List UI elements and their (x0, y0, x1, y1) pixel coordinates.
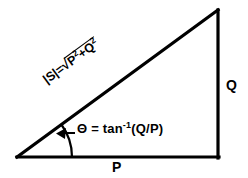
equals-sign: = (91, 121, 99, 136)
angle-equation-label: Θ = tan-1(Q/P) (77, 122, 163, 135)
vertical-label-q: Q (226, 78, 237, 92)
angle-arrowhead-icon (56, 128, 66, 139)
tan-inverse-exponent: -1 (123, 120, 131, 130)
tan-function: tan (103, 121, 123, 136)
power-triangle-diagram: P Q Θ = tan-1(Q/P) |S|=√P2+Q2 (0, 0, 248, 178)
angle-arc (61, 124, 72, 157)
triangle-graphic (0, 0, 248, 178)
base-label-p: P (112, 160, 121, 174)
tan-argument: (Q/P) (131, 121, 163, 136)
theta-symbol: Θ (77, 121, 87, 136)
